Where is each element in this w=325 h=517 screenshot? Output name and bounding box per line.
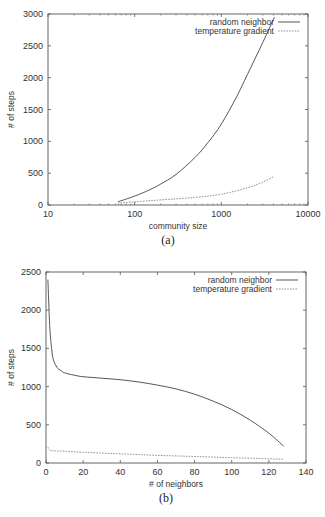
- x-tick-label: 1000: [211, 209, 231, 219]
- figure-caption: (b): [159, 491, 173, 505]
- series-line-random-neighbor: [118, 17, 275, 202]
- y-tick-label: 500: [28, 168, 43, 178]
- x-axis-label: community size: [149, 221, 208, 231]
- chart-b: 05001000150020002500020406080100120140# …: [6, 267, 314, 505]
- figure: 05001000150020002500300010100100010000co…: [0, 0, 325, 517]
- y-tick-label: 2500: [21, 267, 41, 277]
- y-tick-label: 3000: [23, 9, 43, 19]
- plot-frame: [48, 14, 308, 205]
- x-tick-label: 10: [43, 209, 53, 219]
- y-axis-label: # of steps: [6, 91, 16, 128]
- x-tick-label: 40: [115, 467, 125, 477]
- x-tick-label: 0: [43, 467, 48, 477]
- y-tick-label: 1000: [23, 136, 43, 146]
- series-line-temperature-gradient: [48, 447, 284, 459]
- x-tick-label: 80: [190, 467, 200, 477]
- figure-caption: (a): [161, 233, 174, 247]
- y-tick-label: 2500: [23, 41, 43, 51]
- x-axis-label: # of neighbors: [149, 479, 203, 489]
- y-tick-label: 0: [36, 458, 41, 468]
- y-tick-label: 1500: [21, 343, 41, 353]
- x-tick-label: 10000: [295, 209, 320, 219]
- y-tick-label: 2000: [23, 73, 43, 83]
- y-tick-label: 1500: [23, 105, 43, 115]
- x-tick-label: 100: [224, 467, 239, 477]
- y-tick-label: 500: [26, 420, 41, 430]
- y-tick-label: 2000: [21, 305, 41, 315]
- y-axis-label: # of steps: [6, 349, 16, 386]
- x-tick-label: 120: [261, 467, 276, 477]
- series-line-random-neighbor: [48, 280, 284, 447]
- legend-label: temperature gradient: [195, 26, 275, 36]
- x-tick-label: 100: [127, 209, 142, 219]
- plot-frame: [46, 272, 306, 463]
- legend-label: temperature gradient: [193, 284, 273, 294]
- y-tick-label: 1000: [21, 382, 41, 392]
- series-line-temperature-gradient: [118, 176, 275, 203]
- x-tick-label: 60: [152, 467, 162, 477]
- x-tick-label: 20: [78, 467, 88, 477]
- chart-a: 05001000150020002500300010100100010000co…: [6, 9, 321, 247]
- x-tick-label: 140: [298, 467, 313, 477]
